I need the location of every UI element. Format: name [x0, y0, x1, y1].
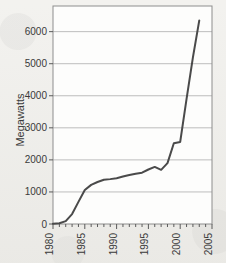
- chart-page: 0100020003000400050006000 19801985199019…: [0, 0, 226, 263]
- line-chart: 0100020003000400050006000 19801985199019…: [0, 0, 226, 263]
- x-tick-label: 1990: [108, 233, 119, 256]
- y-tick-label: 1000: [25, 186, 48, 197]
- y-axis-title: Megawatts: [14, 93, 26, 147]
- y-tick-label: 0: [41, 219, 47, 230]
- x-tick-label: 1980: [44, 233, 55, 256]
- y-tick-label: 3000: [25, 122, 48, 133]
- x-tick-label: 1985: [76, 233, 87, 256]
- x-axis: 198019851990199520002005: [44, 224, 214, 255]
- x-tick-label: 2000: [171, 233, 182, 256]
- plot-background: [53, 6, 212, 224]
- y-axis: 0100020003000400050006000: [25, 26, 53, 229]
- x-tick-label: 2005: [203, 233, 214, 256]
- x-tick-label: 1995: [139, 233, 150, 256]
- y-tick-label: 5000: [25, 58, 48, 69]
- y-tick-label: 6000: [25, 26, 48, 37]
- y-tick-label: 2000: [25, 154, 48, 165]
- y-tick-label: 4000: [25, 90, 48, 101]
